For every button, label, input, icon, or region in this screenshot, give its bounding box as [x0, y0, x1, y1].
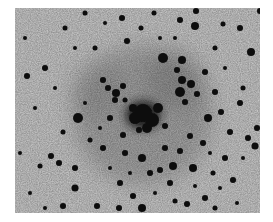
star	[153, 191, 157, 195]
halo	[67, 60, 123, 116]
star	[130, 193, 136, 199]
star	[173, 36, 177, 40]
star-cluster-image	[15, 8, 260, 213]
star	[116, 205, 122, 211]
star	[193, 184, 197, 188]
star	[72, 165, 78, 171]
star	[112, 97, 118, 103]
star	[100, 145, 106, 151]
star	[60, 203, 66, 209]
star	[182, 99, 188, 105]
star	[157, 167, 163, 173]
star	[187, 80, 195, 88]
star	[56, 160, 62, 166]
star	[177, 148, 183, 154]
star	[167, 180, 173, 186]
star	[42, 65, 48, 71]
star	[28, 191, 32, 195]
star	[218, 109, 224, 115]
star	[158, 53, 168, 63]
star	[223, 66, 227, 70]
star	[152, 11, 157, 16]
star	[73, 113, 83, 123]
star	[189, 164, 197, 172]
star	[204, 114, 212, 122]
star	[245, 135, 251, 141]
star	[247, 48, 255, 56]
star	[120, 83, 126, 89]
star	[158, 36, 162, 40]
star	[177, 17, 183, 23]
star	[93, 46, 98, 51]
star	[142, 123, 152, 133]
star	[235, 201, 239, 205]
star	[139, 26, 144, 31]
star	[43, 206, 47, 210]
star	[23, 36, 27, 40]
star	[18, 151, 22, 155]
star	[178, 76, 186, 84]
star	[174, 67, 180, 73]
star	[202, 69, 208, 75]
star	[117, 180, 123, 186]
star	[100, 77, 106, 83]
star	[72, 185, 79, 192]
star	[105, 85, 111, 91]
star	[120, 132, 126, 138]
star	[252, 143, 259, 150]
star	[129, 104, 137, 112]
star	[107, 115, 113, 121]
star	[122, 150, 128, 156]
star	[129, 112, 141, 124]
star	[123, 98, 128, 103]
star	[38, 164, 43, 169]
star	[212, 89, 218, 95]
star	[241, 86, 246, 91]
star	[173, 199, 178, 204]
star	[94, 203, 100, 209]
halo	[145, 50, 205, 110]
star	[227, 129, 233, 135]
star	[208, 151, 212, 155]
star	[88, 138, 93, 143]
star	[63, 26, 68, 31]
star	[218, 186, 222, 190]
star	[112, 89, 120, 97]
star	[213, 46, 218, 51]
star	[194, 91, 200, 97]
star	[98, 126, 102, 130]
star	[103, 21, 107, 25]
star	[191, 22, 199, 30]
star	[162, 123, 168, 129]
star-field	[15, 8, 260, 213]
star	[213, 206, 218, 211]
star	[202, 195, 208, 201]
star	[61, 130, 66, 135]
star	[83, 11, 88, 16]
star	[175, 87, 185, 97]
star	[147, 170, 153, 176]
star	[237, 100, 243, 106]
star	[169, 162, 177, 170]
star	[108, 166, 112, 170]
star	[221, 22, 226, 27]
star	[153, 103, 163, 113]
star	[83, 101, 87, 105]
star	[184, 201, 190, 207]
star	[254, 125, 260, 131]
star	[178, 56, 186, 64]
star	[200, 140, 206, 146]
star	[230, 177, 236, 183]
star	[237, 25, 243, 31]
star	[138, 204, 146, 212]
star	[138, 154, 146, 162]
star	[136, 127, 142, 133]
star	[33, 106, 37, 110]
star	[53, 86, 57, 90]
star	[162, 145, 168, 151]
star	[24, 73, 30, 79]
star	[241, 156, 245, 160]
star	[73, 46, 77, 50]
star	[128, 171, 132, 175]
star	[124, 38, 130, 44]
